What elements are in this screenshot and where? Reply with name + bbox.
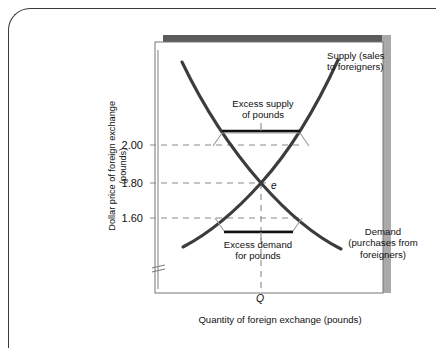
- equilibrium-label: e: [271, 180, 277, 192]
- excess-demand-annotation-line1: Excess demand: [224, 239, 292, 250]
- equilibrium-point: [259, 181, 262, 184]
- y-tick-label-160: 1.60: [103, 212, 143, 225]
- demand-curve-label-line2: (purchases from: [348, 237, 417, 248]
- y-tick-label-200: 2.00: [103, 139, 143, 152]
- excess-supply-annotation: Excess supplyof pounds: [208, 98, 318, 121]
- supply-curve-label-line1: Supply (sales: [327, 50, 385, 61]
- supply-curve-label-line2: to foreigners): [327, 61, 384, 72]
- x-axis-title: Quantity of foreign exchange (pounds): [140, 314, 420, 325]
- supply-curve-label: Supply (salesto foreigners): [327, 50, 427, 73]
- y-tick-label-180: 1.80: [103, 177, 143, 190]
- excess-demand-annotation-line2: for pounds: [235, 250, 280, 261]
- excess-demand-annotation: Excess demandfor pounds: [203, 239, 313, 262]
- demand-curve-label: Demand(purchases fromforeigners): [333, 226, 433, 260]
- excess-supply-annotation-line2: of pounds: [242, 109, 284, 120]
- excess-supply-annotation-line1: Excess supply: [232, 98, 293, 109]
- demand-curve-label-line1: Demand: [365, 226, 401, 237]
- demand-curve-label-line3: foreigners): [360, 249, 406, 260]
- x-tick-label-q: Q: [248, 292, 272, 304]
- figure-root: Dollar price of foreign exchange(pounds)…: [0, 0, 437, 349]
